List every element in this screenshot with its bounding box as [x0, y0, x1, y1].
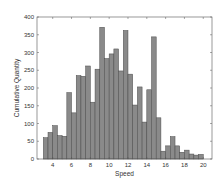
histogram-bar — [156, 118, 161, 159]
x-tick-label: 18 — [181, 162, 188, 168]
histogram-bar — [86, 66, 91, 159]
chart-canvas: 050100150200250300350400 468101214161820… — [0, 0, 224, 185]
x-tick-label: 14 — [143, 162, 150, 168]
histogram-bar — [104, 59, 109, 159]
histogram-bar — [48, 132, 53, 159]
histogram-bar — [119, 71, 124, 159]
histogram-bar — [81, 76, 86, 159]
histogram-bar — [57, 136, 62, 159]
x-axis-label: Speed — [115, 170, 134, 178]
histogram-bar — [137, 87, 142, 159]
x-tick-label: 12 — [125, 162, 132, 168]
histogram-bar — [128, 74, 133, 159]
histogram-bar — [100, 27, 105, 159]
histogram-bar — [180, 152, 185, 159]
histogram-bar — [67, 93, 72, 159]
histogram-bar — [175, 146, 180, 159]
y-tick-label: 0 — [31, 156, 35, 162]
y-tick-label: 200 — [24, 85, 35, 91]
histogram-bar — [109, 54, 114, 159]
x-tick-label: 8 — [89, 162, 93, 168]
y-tick-label: 250 — [24, 67, 35, 73]
x-tick-label: 20 — [200, 162, 207, 168]
histogram-bar — [72, 113, 77, 159]
histogram-bar — [76, 76, 81, 159]
histogram-bar — [194, 155, 199, 159]
histogram-bar — [199, 154, 204, 159]
y-tick-label: 350 — [24, 32, 35, 38]
histogram-bar — [95, 69, 100, 159]
histogram-bar — [147, 90, 152, 159]
histogram-bar — [90, 102, 95, 159]
histogram-bar — [142, 122, 147, 159]
histogram-bar — [53, 126, 58, 159]
histogram-chart: 050100150200250300350400 468101214161820… — [0, 0, 224, 185]
bar-series — [43, 27, 203, 159]
y-tick-label: 400 — [24, 14, 35, 20]
histogram-bar — [123, 30, 128, 159]
histogram-bar — [43, 138, 48, 159]
histogram-bar — [189, 154, 194, 159]
x-tick-label: 4 — [51, 162, 55, 168]
histogram-bar — [161, 151, 166, 159]
y-tick-label: 50 — [27, 138, 34, 144]
x-tick-label: 6 — [70, 162, 74, 168]
histogram-bar — [184, 150, 189, 159]
histogram-bar — [62, 136, 67, 159]
histogram-bar — [133, 105, 138, 159]
y-tick-label: 100 — [24, 121, 35, 127]
y-tick-label: 150 — [24, 103, 35, 109]
histogram-bar — [114, 49, 119, 159]
y-tick-label: 300 — [24, 50, 35, 56]
histogram-bar — [166, 146, 171, 159]
x-tick-label: 10 — [106, 162, 113, 168]
x-tick-label: 16 — [162, 162, 169, 168]
y-axis-label: Cumulative Quantity — [13, 58, 21, 117]
histogram-bar — [170, 137, 175, 159]
histogram-bar — [152, 37, 157, 159]
